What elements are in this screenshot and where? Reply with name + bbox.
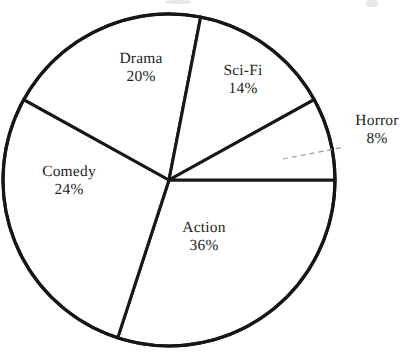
slice-label-sci-fi-value: 14% (41, 80, 404, 98)
scan-artifact (165, 0, 191, 4)
slice-label-comedy-name: Comedy (0, 163, 271, 181)
pie-chart: Action 36% Comedy 24% Drama 20% Sci-Fi 1… (0, 0, 404, 354)
slice-label-action-name: Action (2, 219, 404, 237)
slice-label-comedy: Comedy 24% (0, 163, 271, 199)
slice-label-comedy-value: 24% (0, 181, 271, 199)
slice-label-horror-name: Horror (175, 112, 404, 130)
slice-label-sci-fi-name: Sci-Fi (41, 62, 404, 80)
slice-label-action: Action 36% (2, 219, 404, 255)
slice-label-sci-fi: Sci-Fi 14% (41, 62, 404, 98)
slice-label-action-value: 36% (2, 237, 404, 255)
slice-label-horror: Horror 8% (175, 112, 404, 148)
slice-label-horror-value: 8% (175, 130, 404, 148)
scan-artifact (366, 0, 378, 7)
